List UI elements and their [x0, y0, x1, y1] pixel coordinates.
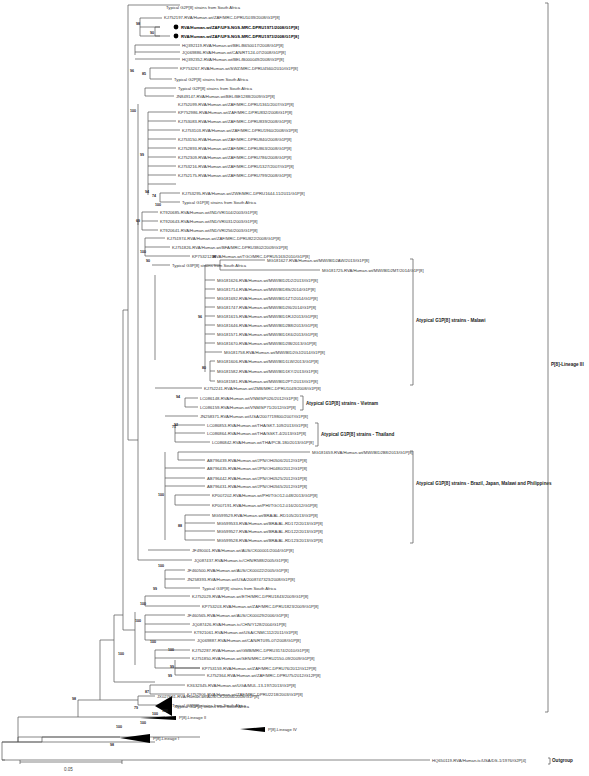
- leaf-label: KP753203-RVA/Human-wt/ZAF/MRC-DPRU1823/2…: [202, 604, 318, 609]
- leaf-label: MG181646-RVA/Human-wt/MWI/BID2B8/2013/G1…: [217, 323, 318, 328]
- bootstrap-value: 98: [212, 255, 216, 259]
- leaf-label: KX632345-RVA/Human-wt/UGA/MUL-13-197/201…: [187, 683, 296, 688]
- leaf-label: JF460500-RVA/Human-wt/AUS/CK00022/2005/G…: [187, 568, 289, 573]
- group-label-thailand: Atypical G1P[8] strains - Thailand: [321, 432, 394, 437]
- bootstrap-value: 100: [140, 250, 146, 254]
- leaf-label: KT920685-RVA/Human-wt/IND/VRI104/2003/G1…: [160, 210, 257, 215]
- leaf-label: AB796442-RVA/Human-wt/JPN/OH0525/2012/G1…: [207, 476, 307, 481]
- leaf-label: KJ752029-RVA/Human-wt/ETH/MRC-DPRU1843/2…: [192, 594, 308, 599]
- leaf-label: AB796431-RVA/Human-wt/JPN/OH0565/2012/G1…: [207, 484, 307, 489]
- leaf-label: KJ752241-RVA/Human-wt/ZMB/MRC-DPRU1049/2…: [204, 386, 321, 391]
- bootstrap-value: 100: [152, 712, 158, 716]
- bootstrap-value: 69: [136, 219, 140, 223]
- leaf-label: JX027631-RVA/Human-wt/AUS/CK20056/2008/G…: [157, 694, 259, 699]
- group-brackets: Atypical G1P[8] strains - Malawi Atypica…: [300, 3, 584, 764]
- leaf-label: KP007191-RVA/Human-wt/PHI/TGO12-016/2012…: [212, 503, 318, 508]
- leaf-label: MG181582-RVA/Human-wt/MWI/BID1KY/2013/G1…: [217, 369, 318, 374]
- leaf-label: Typical G3P[8] strains from South Africa: [172, 263, 247, 268]
- leaf-label: MG181606-RVA/Human-wt/MWI/BID1LW/2013/G1…: [217, 359, 318, 364]
- leaf-label: KJ752309-RVA/Human-wt/ZAF/MRC-DPRU786/20…: [178, 155, 291, 160]
- bootstrap-value: 98: [136, 22, 140, 26]
- leaf-label: JN258371-RVA/Human-wt/USA/2007719800/200…: [200, 414, 308, 419]
- bootstrap-value: 87: [145, 690, 149, 694]
- leaf-label: KJ751826-RVA/Human-wt/BFA/MRC-DPRU3802/2…: [172, 245, 288, 250]
- bootstrap-value: 96: [198, 315, 202, 319]
- bootstrap-value: 80: [202, 366, 206, 370]
- leaf-label: KJ752893-RVA/Human-wt/ZAF/MRC-DPRU863/20…: [178, 146, 291, 151]
- scale-bar: 0.05: [20, 760, 122, 772]
- bootstrap-value: 100: [150, 640, 156, 644]
- bootstrap-value: 92: [174, 423, 178, 427]
- leaf-label: HQ392119-RVA/Human-wt/BEL/B650017/2008/G…: [182, 43, 284, 48]
- leaf-label: Typical G2P[8] strains from South Africa: [178, 86, 253, 91]
- leaf-label: P[8]-Lineage I: [153, 736, 179, 741]
- leaf-label: KJ753083-RVA/Human-wt/ZAF/MRC-DPRU839/20…: [178, 119, 291, 124]
- leaf-label: JQ069887-RVA/Human-wt/CAN/RT095-07/2008/…: [197, 638, 301, 643]
- highlight-dot-1971: [174, 25, 179, 30]
- leaf-label-highlight: RVA/Human-wt/ZAF/UFS-NGS-MRC-DPRU1971/20…: [181, 25, 299, 30]
- bootstrap-value: 96: [130, 69, 134, 73]
- leaf-label: KJ753295-RVA/Human-wt/ZWE/MRC-DPRU1644-1…: [182, 191, 305, 196]
- leaf-label: LC086148-RVA/Human-wt/VNM/SP026/2012/G1P…: [200, 396, 298, 401]
- leaf-label: P[8]-Lineage IV: [268, 727, 297, 732]
- bootstrap-value: 98: [110, 743, 114, 747]
- leaf-label: AB796439-RVA/Human-wt/JPN/OH0506/2012/G1…: [207, 458, 307, 463]
- leaf-label: KJ752364-RVA/Human-wt/ZAF/MRC-DPRU75/201…: [207, 673, 320, 678]
- leaf-label: Typical G9P[8] strains from South Africa: [172, 703, 247, 708]
- leaf-label: JQ087426-RVA/Human-tc/CHN/Y128/2004/G1P[…: [192, 622, 286, 627]
- leaf-label: JF460565-RVA/Human-wt/AUS/CK00029/2006/G…: [187, 613, 289, 618]
- bootstrap-value: 100: [140, 721, 146, 725]
- bootstrap-value: 100: [130, 109, 136, 113]
- leaf-label: LC086842-RVA/Human-wt/THA/PCB-180/2013/G…: [212, 440, 314, 445]
- leaf-label: MG599527-RVA/Human-wt/BRA/AL-RD122/2013/…: [217, 529, 323, 534]
- leaf-label: KJ753216-RVA/Human-wt/ZAF/MRC-DPRU1327/2…: [178, 164, 294, 169]
- leaf-label: MG599528-RVA/Human-wt/BRA/AL-RD123/2013/…: [217, 538, 323, 543]
- leaf-label: LC086864-RVA/Human-wt/THA/SSKT-4/2013/G1…: [207, 431, 306, 436]
- leaf-label: MG181714-RVA/Human-wt/MWI/BID8S/2014/G1P…: [217, 287, 315, 292]
- bootstrap-value: 100: [168, 648, 174, 652]
- bootstrap-value: 90: [146, 259, 150, 263]
- bootstrap-value: 94: [176, 395, 180, 399]
- leaf-label: KP752986-RVA/Human-wt/ZAF/MRC-DPRU832/20…: [178, 110, 292, 115]
- leaf-label: MG181615-RVA/Human-wt/MWI/BID1RJ/2013/G1…: [217, 314, 318, 319]
- leaf-label: KJ752175-RVA/Human-wt/ZAF/MRC-DPRU799/20…: [178, 173, 291, 178]
- leaf-label: KJ751974-RVA/Human-wt/ZAF/MRC-DPRU822/20…: [167, 236, 280, 241]
- leaf-label: MG599529-RVA/Human-wt/BRA/AL-RD105/2013/…: [212, 513, 318, 518]
- bootstrap-value: 100: [155, 203, 161, 207]
- bootstrap-value: 99: [140, 153, 144, 157]
- leaf-label: Typical G3P[8] strains from South Africa: [202, 586, 277, 591]
- leaf-label: HQ392352-RVA/Human-wt/BEL/B000049/2008/G…: [182, 57, 284, 62]
- leaf-label: MG181692-RVA/Human-wt/MWI/BID1ZT/2014/G1…: [217, 296, 318, 301]
- bootstrap-value: 90: [150, 31, 154, 35]
- bootstrap-value: 74: [152, 194, 156, 198]
- leaf-label: HQ650119-RVA/Human-tc/USA/DS-1/1976/G2P[…: [432, 758, 526, 763]
- bootstrap-value: 88: [178, 524, 182, 528]
- leaf-label: AB796435-RVA/Human-wt/JPN/OH0480/2012/G1…: [207, 466, 307, 471]
- group-label-malawi: Atypical G1P[8] strains - Malawi: [416, 318, 485, 323]
- leaf-label: KJ752287-RVA/Human-wt/GMB/MRC-DPRU3174/2…: [192, 648, 309, 653]
- leaf-label: JN849147-RVA/Human-wt/BEL/BE1288/2009/G1…: [176, 94, 275, 99]
- leaf-label: KJ751850-RVA/Human-wt/SEN/MRC-DPRU2150-0…: [192, 656, 315, 661]
- leaf-label: KT920641-RVA/Human-wt/IND/VRI256/2003/G1…: [160, 228, 257, 233]
- bootstrap-value: 99: [153, 587, 157, 591]
- leaf-label: MG181627-RVA/Human-wt/MWI/BID2AW/2013/G1…: [267, 258, 369, 263]
- leaf-label: Typical G2P[8] strains from South Africa: [166, 5, 241, 10]
- leaf-label: MG181758-RVA/Human-wt/MWI/BID2GJ/2014/G1…: [224, 350, 325, 355]
- bootstrap-value: 98: [72, 697, 76, 701]
- leaf-label: KP007202-RVA/Human-wt/PHI/TGO12-048/2013…: [212, 493, 318, 498]
- leaf-label: MG181626-RVA/Human-wt/MWI/BID2D2/2013/G1…: [217, 278, 318, 283]
- leaf-label: Typical G2P[8] strains from South Africa: [174, 77, 249, 82]
- bootstrap-value: 85: [142, 72, 146, 76]
- leaf-label: MG599533-RVA/Human-wt/BRA/AL-RD172/2013/…: [217, 521, 323, 526]
- leaf-label: MG181571-RVA/Human-wt/MWI/BID1K6/2013/G1…: [217, 332, 318, 337]
- leaf-label: MG181659-RVA/Human-wt/MWI/BID2B8/2013/G1…: [312, 450, 413, 455]
- leaf-label: KJ753150-RVA/Human-wt/ZAF/MRC-DPRU840/20…: [178, 137, 291, 142]
- bootstrap-value: 100: [118, 652, 124, 656]
- leaf-label: KP753159-RVA/Human-wt/ZAF/MRC-DPRU76/201…: [202, 666, 316, 671]
- leaf-label: KJ753103-RVA/Human-wt/ZAF/MRC-DPRU1960/2…: [182, 128, 298, 133]
- bootstrap-value: 100: [135, 619, 141, 623]
- leaf-label: LC086853-RVA/Human-wt/THA/SKT-109/2013/G…: [207, 423, 308, 428]
- leaf-label: MG181581-RVA/Human-wt/MWI/BID2PT/2013/G1…: [217, 379, 318, 384]
- bootstrap-value: 100: [116, 725, 122, 729]
- leaf-label: P[8]-Lineage II: [179, 715, 206, 720]
